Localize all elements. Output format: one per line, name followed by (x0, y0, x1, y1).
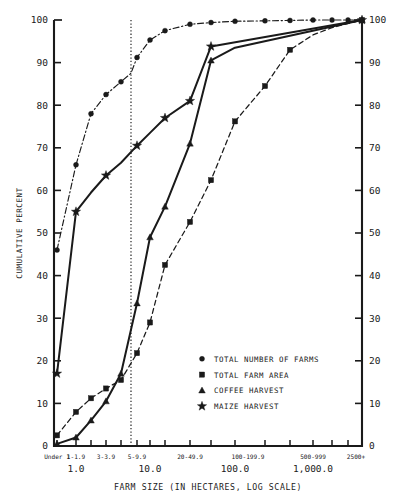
square-marker (73, 409, 78, 414)
y-tick-label-left: 90 (37, 57, 49, 68)
x-decade-label: 1,000.0 (293, 463, 333, 474)
y-tick-label-left: 20 (37, 355, 49, 366)
circle-marker (263, 18, 268, 23)
y-tick-label-right: 0 (369, 440, 375, 451)
tick-labels-layer: 0010102020303040405050606070708080909010… (31, 14, 387, 474)
square-marker (162, 262, 167, 267)
y-tick-label-right: 10 (369, 398, 381, 409)
triangle-marker (199, 387, 206, 393)
x-tick-label: 100-199.9 (231, 453, 264, 460)
x-decade-label: 100.0 (221, 463, 250, 474)
series-2 (54, 17, 364, 438)
series-line (57, 20, 362, 374)
legend-item-circle[interactable]: TOTAL NUMBER OF FARMS (200, 355, 320, 364)
y-tick-label-left: 40 (37, 270, 49, 281)
y-tick-label-right: 60 (369, 185, 381, 196)
triangle-marker (118, 370, 125, 376)
square-marker (147, 320, 152, 325)
circle-marker (89, 111, 94, 116)
triangle-marker (162, 203, 169, 209)
square-marker (232, 119, 237, 124)
y-tick-label-left: 10 (37, 398, 49, 409)
triangle-marker (187, 140, 194, 146)
y-tick-label-right: 90 (369, 57, 381, 68)
y-tick-label-right: 20 (369, 355, 381, 366)
legend-item-star[interactable]: MAIZE HARVEST (197, 401, 279, 411)
legend-item-triangle[interactable]: COFFEE HARVEST (199, 386, 284, 395)
legend-label: TOTAL FARM AREA (214, 371, 289, 380)
circle-marker (209, 20, 214, 25)
x-tick-label: 500-999 (300, 453, 326, 460)
circle-marker (55, 248, 60, 253)
y-tick-label-right: 100 (369, 14, 386, 25)
y-tick-label-left: 80 (37, 100, 49, 111)
series-line (57, 20, 362, 435)
circle-marker (311, 18, 316, 23)
y-tick-label-right: 70 (369, 142, 381, 153)
cumulative-percent-line-chart: 0010102020303040405050606070708080909010… (0, 0, 399, 503)
y-tick-label-right: 50 (369, 227, 381, 238)
square-marker (199, 372, 204, 377)
y-tick-label-left: 60 (37, 185, 49, 196)
x-tick-label: 3-3.9 (97, 453, 116, 460)
square-marker (103, 386, 108, 391)
triangle-marker (134, 300, 141, 306)
square-marker (262, 83, 267, 88)
square-marker (134, 351, 139, 356)
square-marker (287, 47, 292, 52)
series-layer (52, 15, 366, 446)
circle-marker (288, 18, 293, 23)
y-tick-label-right: 30 (369, 313, 381, 324)
x-decade-label: 1.0 (67, 463, 84, 474)
circle-marker (119, 79, 124, 84)
x-tick-label: 5-9.9 (128, 453, 147, 460)
y-tick-label-left: 70 (37, 142, 49, 153)
circle-marker (163, 28, 168, 33)
axis-frame (54, 20, 362, 446)
x-tick-label: 1-1.9 (67, 453, 86, 460)
axes-frame (54, 20, 362, 446)
legend-label: MAIZE HARVEST (214, 402, 279, 411)
circle-marker (135, 55, 140, 60)
x-decade-label: 10.0 (139, 463, 162, 474)
y-tick-label-right: 40 (369, 270, 381, 281)
y-tick-label-left: 100 (31, 14, 48, 25)
circle-marker (148, 38, 153, 43)
y-axis-title: CUMULATIVE PERCENT (15, 187, 24, 278)
square-marker (88, 396, 93, 401)
legend: TOTAL NUMBER OF FARMSTOTAL FARM AREACOFF… (197, 355, 319, 411)
y-tick-label-left: 0 (42, 440, 48, 451)
y-tick-label-left: 50 (37, 227, 49, 238)
square-marker (208, 178, 213, 183)
x-axis-title: FARM SIZE (IN HECTARES, LOG SCALE) (114, 482, 302, 492)
star-marker (197, 401, 206, 410)
legend-label: COFFEE HARVEST (214, 386, 284, 395)
legend-label: TOTAL NUMBER OF FARMS (214, 355, 319, 364)
series-3 (54, 17, 366, 447)
y-tick-label-right: 80 (369, 100, 381, 111)
circle-marker (233, 19, 238, 24)
circle-marker (200, 356, 205, 361)
square-marker (54, 433, 59, 438)
x-tick-label: 20-49.9 (177, 453, 203, 460)
chart-container: 0010102020303040405050606070708080909010… (0, 0, 399, 503)
circle-marker (188, 22, 193, 27)
circle-marker (74, 162, 79, 167)
y-tick-label-left: 30 (37, 313, 49, 324)
circle-marker (330, 18, 335, 23)
x-tick-label: 2500+ (347, 453, 366, 460)
square-marker (187, 219, 192, 224)
series-line (57, 20, 362, 250)
legend-item-square[interactable]: TOTAL FARM AREA (199, 371, 289, 380)
circle-marker (104, 92, 109, 97)
series-line (57, 20, 362, 444)
